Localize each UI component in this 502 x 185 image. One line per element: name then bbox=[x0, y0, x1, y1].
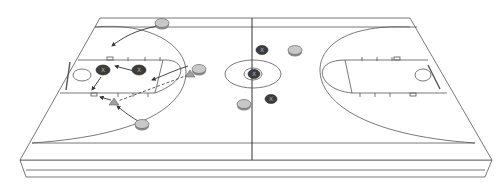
offense-player bbox=[288, 46, 302, 57]
svg-text:X: X bbox=[260, 46, 264, 53]
offense-player bbox=[237, 100, 251, 111]
court-surface bbox=[20, 18, 492, 160]
offense-player bbox=[135, 120, 149, 131]
svg-text:X: X bbox=[269, 95, 273, 102]
defense-player: X bbox=[132, 65, 146, 75]
offense-player bbox=[155, 19, 169, 30]
defense-player: X bbox=[248, 70, 260, 79]
svg-text:X: X bbox=[101, 66, 105, 73]
defense-player: X bbox=[256, 46, 268, 55]
offense-player bbox=[192, 65, 206, 76]
basketball-court-diagram: X X X X X bbox=[0, 0, 502, 185]
svg-text:X: X bbox=[252, 70, 256, 77]
court-slab bbox=[20, 160, 492, 177]
svg-text:X: X bbox=[137, 66, 141, 73]
defense-player: X bbox=[96, 65, 110, 75]
defense-player: X bbox=[265, 95, 277, 104]
